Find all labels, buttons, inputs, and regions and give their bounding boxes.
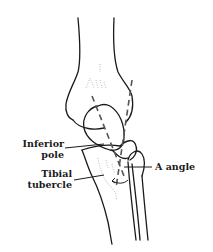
femur-stipple [86,64,106,88]
a-angle-arrowhead [112,178,115,183]
femur-medial-edge [66,18,80,120]
femur-lateral-edge [114,18,133,122]
knee-diagram [0,0,213,252]
tibial-tubercle-label: Tibial tubercle [14,168,72,190]
tibial-tubercle-leader [74,175,104,180]
fibula-head [128,151,144,176]
patellar-tendon [112,150,128,159]
tibial-tubercle-axis-line [116,80,132,188]
tibia-anterior [82,150,112,244]
fibula-shaft-2 [132,164,140,240]
inferior-pole-label: Inferior pole [14,138,64,160]
tibia-posterior [142,176,148,240]
femoral-condyle [73,120,104,129]
fibula-shaft-1 [128,162,136,240]
a-angle-label: A angle [155,161,195,172]
